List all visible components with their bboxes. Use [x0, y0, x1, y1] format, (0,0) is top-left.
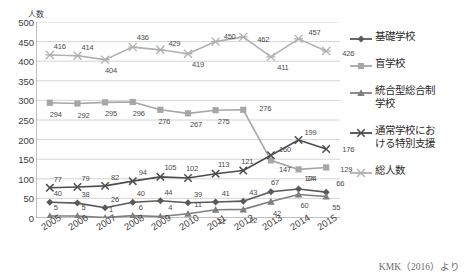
- data-point-star: [357, 169, 366, 177]
- legend-item-4[interactable]: 総人数: [350, 164, 466, 177]
- data-point-label: 60: [301, 201, 309, 210]
- data-point-label: 292: [77, 110, 89, 119]
- data-point-label: 40: [54, 189, 62, 198]
- data-point-label: 124: [305, 174, 317, 183]
- legend-item-2[interactable]: 統合型総合制 学校: [350, 84, 466, 110]
- legend-item-label: 総人数: [375, 164, 405, 177]
- legend-item-label: 盲学校: [375, 57, 405, 70]
- data-point-label: 26: [111, 194, 119, 203]
- data-point-diamond: [358, 36, 365, 43]
- data-point-square: [358, 63, 364, 69]
- data-point-label: 67: [271, 177, 279, 186]
- data-point-label: 436: [137, 33, 149, 42]
- y-axis-tick-label: 200: [8, 134, 34, 145]
- data-point-label: 276: [259, 103, 271, 112]
- data-point-label: 43: [249, 188, 257, 197]
- y-axis-tick-label: 250: [8, 115, 34, 126]
- data-point-label: 199: [305, 127, 317, 136]
- data-point-label: 38: [81, 190, 89, 199]
- legend-item-1[interactable]: 盲学校: [350, 57, 466, 70]
- legend-item-label: 統合型総合制 学校: [375, 84, 435, 110]
- data-point-label: 6: [139, 202, 143, 211]
- data-point-label: 267: [190, 120, 202, 129]
- data-point-label: 94: [139, 168, 147, 177]
- data-point-label: 457: [309, 27, 321, 36]
- data-point-label: 5: [81, 203, 85, 212]
- data-point-label: 39: [194, 189, 202, 198]
- legend-diamond-icon: [350, 31, 372, 43]
- data-point-label: 276: [158, 116, 170, 125]
- legend-item-3[interactable]: 通常学校にお ける特別支援: [350, 124, 466, 150]
- data-point-label: 275: [218, 117, 230, 126]
- y-axis-tick-label: 150: [8, 154, 34, 165]
- data-point-label: 296: [133, 108, 145, 117]
- data-point-label: 11: [194, 199, 201, 208]
- data-point-label: 4: [168, 203, 172, 212]
- data-point-label: 5: [54, 203, 58, 212]
- data-point-label: 55: [332, 203, 340, 212]
- legend-item-label: 基礎学校: [375, 30, 415, 43]
- legend-star-icon: [350, 165, 372, 177]
- y-axis-tick-label: 350: [8, 75, 34, 86]
- y-axis-tick-label: 100: [8, 173, 34, 184]
- legend-item-label: 通常学校にお ける特別支援: [375, 124, 435, 150]
- legend-square-icon: [350, 58, 372, 70]
- data-point-label: 147: [279, 165, 291, 174]
- y-axis-tick-label: 0: [8, 213, 34, 224]
- data-labels-layer: 4038264044394143677466294292295296276267…: [36, 22, 340, 218]
- data-point-label: 419: [192, 59, 204, 68]
- y-axis-tick-label: 50: [8, 193, 34, 204]
- data-point-label: 82: [111, 172, 119, 181]
- y-axis-tick-label: 400: [8, 56, 34, 67]
- y-axis-ticks: 050100150200250300350400450500: [4, 22, 34, 218]
- x-axis-ticks: 2005200620072008200920102011201220132014…: [36, 219, 340, 259]
- data-point-label: 450: [224, 31, 236, 40]
- data-point-label: 44: [164, 187, 172, 196]
- chart-legend: 基礎学校盲学校統合型総合制 学校通常学校にお ける特別支援総人数: [350, 30, 466, 191]
- data-point-label: 40: [137, 189, 145, 198]
- data-point-label: 404: [105, 65, 117, 74]
- data-point-label: 462: [257, 34, 269, 43]
- data-point-label: 121: [241, 156, 253, 165]
- data-point-label: 411: [277, 62, 288, 71]
- y-axis-tick-label: 500: [8, 17, 34, 28]
- y-axis-tick-label: 300: [8, 95, 34, 106]
- data-point-label: 79: [81, 174, 89, 183]
- data-point-label: 414: [81, 42, 93, 51]
- legend-cross-icon: [350, 125, 372, 137]
- data-point-label: 66: [336, 179, 344, 188]
- chart-container: 人数 050100150200250300350400450500 403826…: [0, 0, 468, 279]
- y-axis-tick-label: 450: [8, 36, 34, 47]
- data-point-label: 416: [54, 41, 66, 50]
- data-point-label: 160: [279, 145, 291, 154]
- data-point-label: 429: [168, 38, 180, 47]
- source-note: KMK（2016）より: [379, 259, 460, 273]
- data-point-label: 77: [54, 174, 62, 183]
- data-point-label: 41: [222, 188, 230, 197]
- data-point-label: 295: [105, 109, 117, 118]
- data-point-label: 105: [164, 162, 176, 171]
- legend-item-0[interactable]: 基礎学校: [350, 30, 466, 43]
- legend-triangle-icon: [350, 85, 372, 97]
- data-point-label: 113: [218, 159, 229, 168]
- data-point-label: 102: [186, 164, 198, 173]
- data-point-label: 294: [50, 109, 62, 118]
